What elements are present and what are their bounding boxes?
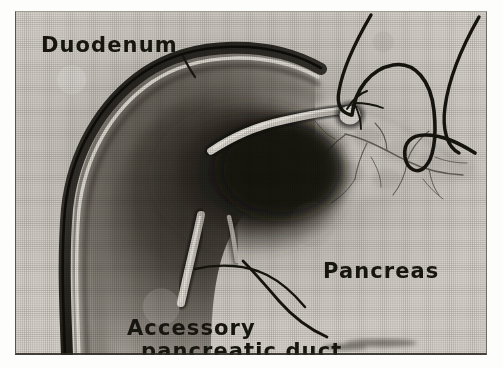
label-layer: Duodenum Pancreas Accessory pancreatic d… xyxy=(15,11,487,355)
label-duodenum: Duodenum xyxy=(41,33,178,57)
label-accessory-line1: Accessory xyxy=(127,316,256,340)
label-pancreas: Pancreas xyxy=(323,259,439,283)
halftone-plate: Duodenum Pancreas Accessory pancreatic d… xyxy=(15,11,487,355)
duodenum-leader xyxy=(183,56,195,77)
figure-root: Duodenum Pancreas Accessory pancreatic d… xyxy=(0,0,503,368)
label-accessory-line2: pancreatic duct xyxy=(141,339,342,355)
